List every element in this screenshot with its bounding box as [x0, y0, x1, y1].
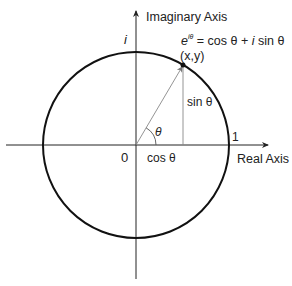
theta-label: θ: [155, 125, 162, 139]
imag-unit-label: i: [124, 32, 128, 47]
formula-rhs-2: sin θ: [254, 34, 284, 48]
formula-rhs-1: = cos θ +: [193, 34, 251, 48]
real-axis-label: Real Axis: [237, 152, 289, 166]
unit-circle-diagram: Imaginary Axis Real Axis i 0 1 θ (x,y) c…: [0, 0, 292, 286]
euler-formula: eiθ = cos θ + i sin θ: [181, 33, 284, 48]
formula-base: e: [181, 34, 188, 48]
origin-label: 0: [121, 150, 128, 165]
imaginary-axis-label: Imaginary Axis: [146, 10, 227, 24]
cos-label: cos θ: [147, 151, 176, 165]
point-marker: [181, 63, 186, 68]
point-label: (x,y): [180, 49, 204, 63]
sin-label: sin θ: [187, 95, 213, 109]
one-label: 1: [232, 130, 239, 144]
